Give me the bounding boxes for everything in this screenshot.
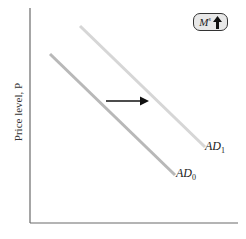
up-arrow-icon: [213, 16, 222, 29]
money-supply-increase-badge: Ms: [193, 13, 228, 31]
y-axis-label: Price level, P: [12, 62, 24, 162]
ad1-curve: [80, 26, 205, 147]
ad1-label: AD1: [205, 139, 225, 155]
shift-arrow-head: [140, 97, 149, 106]
ad0-label: AD0: [176, 166, 196, 182]
diagram-canvas: [0, 0, 246, 239]
ad0-curve: [50, 54, 175, 175]
money-supply-symbol: Ms: [199, 16, 211, 28]
